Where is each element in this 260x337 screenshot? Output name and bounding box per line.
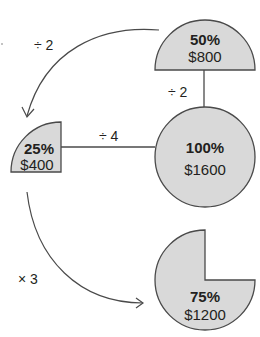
quarter-amount: $400	[20, 156, 53, 173]
node-full: 100% $1600	[155, 107, 255, 207]
circle-shape	[155, 107, 255, 207]
three-quarter-percent: 75%	[190, 288, 220, 305]
stray-dot	[1, 43, 3, 45]
full-percent: 100%	[186, 139, 224, 156]
half-amount: $800	[188, 48, 221, 65]
node-three-quarter: 75% $1200	[155, 230, 255, 330]
quarter-percent: 25%	[24, 140, 54, 157]
op-full-to-half: ÷ 2	[168, 84, 188, 100]
half-percent: 50%	[190, 31, 220, 48]
op-quarter-to-three-quarter: × 3	[18, 271, 38, 287]
op-full-to-quarter: ÷ 4	[99, 128, 119, 144]
op-half-to-quarter: ÷ 2	[34, 37, 54, 53]
node-quarter: 25% $400	[11, 122, 61, 173]
arrow-quarter-to-three-quarter	[27, 192, 143, 308]
three-quarter-amount: $1200	[184, 306, 226, 323]
node-half: 50% $800	[155, 20, 255, 70]
fraction-diagram: 50% $800 100% $1600 25% $400 75% $1200 ÷…	[0, 0, 260, 337]
full-amount: $1600	[184, 161, 226, 178]
curved-arrow-line	[27, 192, 143, 303]
